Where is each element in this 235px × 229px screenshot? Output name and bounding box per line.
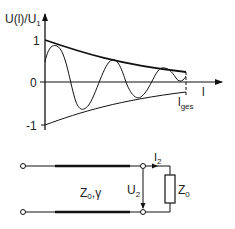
y-tick-minus1: -1 [26, 119, 37, 133]
diagram-canvas: U(l)/U1 1 0 -1 l lges Z0 [0, 0, 235, 229]
y-axis [41, 14, 45, 130]
y-axis-label: U(l)/U1 [5, 12, 41, 28]
standing-wave [45, 46, 186, 110]
output-terminal-bottom [141, 210, 146, 215]
input-terminal-bottom [21, 210, 26, 215]
lges-label: lges [178, 95, 194, 111]
output-terminal-top [141, 164, 146, 169]
y-tick-1: 1 [33, 34, 40, 48]
input-terminal-top [21, 164, 26, 169]
load-impedance-label: Z0 [178, 183, 190, 199]
x-axis-label: l [202, 85, 205, 99]
y-tick-0: 0 [30, 76, 37, 90]
lower-envelope [45, 92, 186, 125]
current-label: I2 [154, 151, 162, 166]
load-resistor [165, 175, 175, 203]
voltage-label: U2 [127, 183, 141, 199]
line-parameters-label: Z0,γ [80, 186, 101, 201]
upper-envelope [45, 40, 186, 72]
